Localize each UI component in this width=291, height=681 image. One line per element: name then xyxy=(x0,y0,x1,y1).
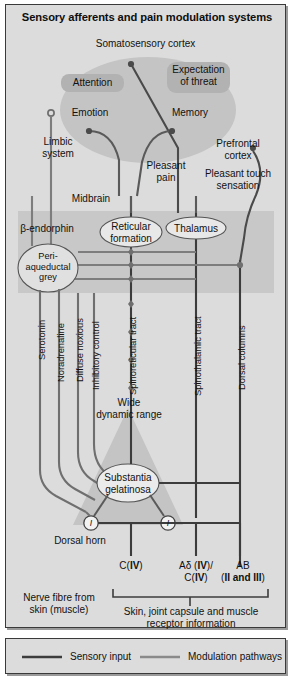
synapse-marker-4 xyxy=(128,300,134,308)
label-wide-dynamic-range: Widedynamic range xyxy=(94,397,164,420)
label-thalamus: Thalamus xyxy=(166,223,226,235)
label-pleasant-pain: Pleasantpain xyxy=(140,160,192,183)
label-expectation-of-threat: Expectationof threat xyxy=(167,64,230,87)
label-prefrontal-cortex: Prefrontalcortex xyxy=(205,138,271,161)
label-pleasant-touch-sensation: Pleasant touchsensation xyxy=(192,168,284,191)
afferent-label-a-beta: AB(II and III) xyxy=(209,560,277,583)
label-dorsal-horn: Dorsal horn xyxy=(40,535,120,547)
tract-label-dorsal-columns: Dorsal columns xyxy=(236,325,247,390)
tract-label-spinoreticular: Spinoreticular tract xyxy=(127,317,138,395)
afferent-label-c-fibre: C(IV) xyxy=(104,560,158,572)
label-reticular-formation: Reticularformation xyxy=(100,221,162,244)
tract-label-inhibitory-control: Inhibitory control xyxy=(90,321,101,390)
label-somatosensory-cortex: Somatosensory cortex xyxy=(64,38,227,50)
label-midbrain: Midbrain xyxy=(36,193,146,205)
afferent-bracket xyxy=(113,589,268,597)
label-emotion: Emotion xyxy=(60,107,120,119)
tract-label-noradrenaline: Noradrenaline xyxy=(55,323,66,382)
tract-label-diffuse-noxious: Diffuse noxious xyxy=(74,318,85,382)
legend-label-modulation-pathways: Modulation pathways xyxy=(188,651,282,662)
label-receptor-information: Skin, joint capsule and musclereceptor i… xyxy=(108,606,274,629)
interneuron-right-label: I xyxy=(161,518,175,530)
tract-label-serotonin: Serotonin xyxy=(36,320,47,360)
label-substantia-gelatinosa: Substantiagelatinosa xyxy=(97,472,159,495)
node-somatosensory-cortex xyxy=(128,61,134,67)
label-limbic-system: Limbicsystem xyxy=(29,136,87,159)
tract-label-spinothalamic: Spinothalamic tract xyxy=(192,316,203,396)
label-nerve-fibre-from-skin: Nerve fibre fromskin (muscle) xyxy=(12,592,106,615)
node-dorsal-columns-band xyxy=(237,262,243,268)
legend-label-sensory-input: Sensory input xyxy=(70,651,131,662)
figure-root: Sensory afferents and pain modulation sy… xyxy=(0,0,291,681)
label-periaqueductal-grey: Peri-aqueductalgrey xyxy=(18,251,78,283)
label-memory: Memory xyxy=(160,107,220,119)
node-limbic-left xyxy=(86,128,92,134)
label-beta-endorphin: β-endorphin xyxy=(12,223,82,235)
node-memory xyxy=(169,128,175,134)
label-attention: Attention xyxy=(61,77,124,89)
interneuron-left-label: I xyxy=(84,518,98,530)
node-emotion-open xyxy=(48,110,54,116)
